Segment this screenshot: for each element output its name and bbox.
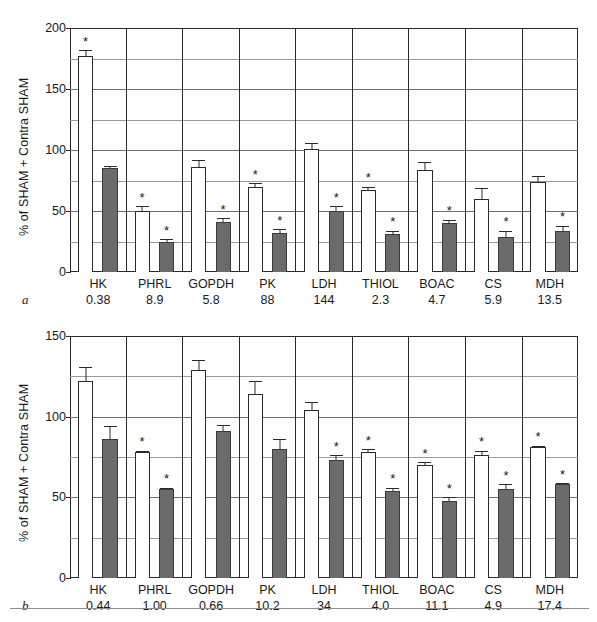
x-axis-category-value: 4.7: [409, 292, 465, 309]
bar-filled[interactable]: [272, 233, 287, 272]
panel-b-letter: b: [22, 598, 29, 614]
x-axis-category-name: PK: [239, 276, 295, 292]
bar-open[interactable]: [78, 381, 93, 578]
bar-filled[interactable]: [102, 168, 117, 272]
x-axis-category-name: HK: [70, 276, 126, 292]
y-tick-label: 0: [59, 571, 66, 585]
x-axis-category: GOPDH0.66: [183, 582, 239, 615]
bar-filled[interactable]: [498, 237, 513, 272]
x-axis-category: LDH144: [296, 276, 352, 309]
x-axis-category-value: 2.3: [352, 292, 408, 309]
error-bar: [424, 462, 425, 465]
bar-filled[interactable]: [102, 439, 117, 578]
x-axis-category: BOAC11.1: [409, 582, 465, 615]
error-bar-cap: [136, 206, 149, 207]
y-tick-label: 100: [45, 410, 66, 424]
bar-slot: [300, 28, 324, 272]
bar-filled[interactable]: [159, 489, 174, 578]
error-bar: [279, 439, 280, 449]
y-tick-label: 50: [52, 490, 66, 504]
x-axis-category: PK88: [239, 276, 295, 309]
error-bar-cap: [79, 367, 92, 368]
bar-open[interactable]: [78, 56, 93, 272]
bar-filled[interactable]: [555, 231, 570, 272]
error-bar-cap: [443, 220, 456, 221]
error-bar-cap: [104, 426, 117, 427]
bar-filled[interactable]: [272, 449, 287, 578]
significance-asterisk: *: [334, 444, 339, 450]
bar-open[interactable]: [191, 370, 206, 578]
error-bar: [562, 226, 563, 231]
error-bar-cap: [556, 483, 569, 484]
error-bar-cap: [499, 484, 512, 485]
bar-filled[interactable]: [216, 222, 231, 272]
error-bar-cap: [418, 162, 431, 163]
bar-slot: *: [130, 28, 154, 272]
x-axis-category-name: BOAC: [409, 276, 465, 292]
bar-filled[interactable]: [329, 460, 344, 578]
bar-open[interactable]: [304, 410, 319, 578]
error-bar-cap: [532, 446, 545, 447]
bar-filled[interactable]: [216, 431, 231, 578]
bar-filled[interactable]: [442, 501, 457, 578]
bar-slot: *: [494, 28, 518, 272]
error-bar-cap: [305, 402, 318, 403]
bar-slot: [98, 336, 122, 578]
x-axis-category-value: 0.44: [70, 598, 126, 615]
bar-open[interactable]: [135, 452, 150, 578]
x-axis-category-name: PHRL: [126, 582, 182, 598]
bar-open[interactable]: [417, 465, 432, 578]
bar-slot: [300, 336, 324, 578]
x-axis-category-name: BOAC: [409, 582, 465, 598]
bar-filled[interactable]: [442, 223, 457, 272]
bar-filled[interactable]: [159, 242, 174, 273]
x-axis-category-value: 0.38: [70, 292, 126, 309]
x-axis-category-value: 144: [296, 292, 352, 309]
bar-open[interactable]: [474, 455, 489, 578]
significance-asterisk: *: [447, 486, 452, 492]
error-bar-cap: [386, 488, 399, 489]
bar-slot: *: [437, 336, 461, 578]
y-tick-label: 50: [52, 204, 66, 218]
error-bar-cap: [418, 462, 431, 463]
x-axis-category-name: PHRL: [126, 276, 182, 292]
x-axis-category-name: LDH: [296, 276, 352, 292]
bar-open[interactable]: [191, 167, 206, 272]
bar-filled[interactable]: [385, 491, 400, 578]
bar-open[interactable]: [474, 199, 489, 272]
bar-group: [70, 336, 127, 578]
bar-slot: *: [550, 336, 574, 578]
bar-filled[interactable]: [385, 234, 400, 272]
bar-open[interactable]: [248, 394, 263, 578]
bar-open[interactable]: [530, 182, 545, 272]
bar-open[interactable]: [361, 190, 376, 272]
error-bar-cap: [362, 449, 375, 450]
x-axis-category-value: 5.9: [465, 292, 521, 309]
bar-filled[interactable]: [555, 484, 570, 578]
error-bar: [336, 206, 337, 211]
error-bar: [85, 50, 86, 56]
y-tick-label: 100: [45, 143, 66, 157]
significance-asterisk: *: [334, 195, 339, 201]
bar-open[interactable]: [304, 149, 319, 272]
bar-open[interactable]: [530, 447, 545, 578]
bar-open[interactable]: [135, 211, 150, 272]
bar-filled[interactable]: [498, 489, 513, 578]
x-axis-category-name: GOPDH: [183, 276, 239, 292]
bar-open[interactable]: [361, 452, 376, 578]
error-bar-cap: [305, 143, 318, 144]
error-bar-cap: [362, 187, 375, 188]
bar-filled[interactable]: [329, 211, 344, 272]
error-bar: [255, 381, 256, 394]
x-axis-category-value: 4.0: [352, 598, 408, 615]
error-bar-cap: [249, 183, 262, 184]
bar-group: *: [296, 28, 353, 272]
bar-open[interactable]: [248, 187, 263, 272]
error-bar-cap: [217, 218, 230, 219]
bar-slot: *: [154, 336, 178, 578]
bar-slot: *: [550, 28, 574, 272]
bar-group: *: [183, 28, 240, 272]
error-bar: [368, 449, 369, 452]
error-bar-cap: [249, 381, 262, 382]
bar-open[interactable]: [417, 170, 432, 272]
